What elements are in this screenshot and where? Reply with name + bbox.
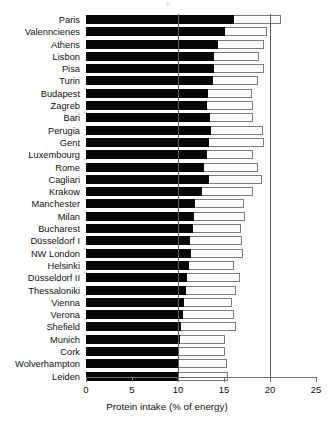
plot-area [86, 14, 316, 376]
bar-inner [86, 89, 208, 98]
y-axis-label: Krakow [0, 186, 83, 198]
y-axis-label: Manchester [0, 198, 83, 210]
bar-row [86, 198, 316, 210]
bar-inner [86, 150, 207, 159]
bar-inner [86, 113, 210, 122]
y-axis-label: Gent [0, 137, 83, 149]
x-tick-label: 25 [311, 384, 322, 395]
bar-inner [86, 40, 218, 49]
bar-row [86, 149, 316, 161]
y-axis-label: Leiden [0, 371, 83, 383]
y-axis-label: Helsinki [0, 260, 83, 272]
y-axis-label: Düsseldorf II [0, 272, 83, 284]
y-axis-label: Valenncienes [0, 26, 83, 38]
y-axis-label: Rome [0, 162, 83, 174]
chart-figure: o ParisValenncienesAthensLisbonPisaTurin… [0, 0, 334, 425]
x-tick-label: 20 [265, 384, 276, 395]
bar-inner [86, 249, 191, 258]
y-axis-label: Düsseldorf I [0, 235, 83, 247]
bar-row [86, 26, 316, 38]
bar-inner [86, 347, 179, 356]
bar-row [86, 211, 316, 223]
bar-row [86, 334, 316, 346]
y-axis-label: Budapest [0, 88, 83, 100]
bar-inner [86, 138, 209, 147]
bar-row [86, 285, 316, 297]
bar-row [86, 39, 316, 51]
bar-row [86, 235, 316, 247]
y-axis-label: Luxembourg [0, 149, 83, 161]
bar-inner [86, 335, 180, 344]
bar-row [86, 272, 316, 284]
y-axis-label: Wolverhampton [0, 358, 83, 370]
y-axis-label: Cork [0, 346, 83, 358]
bar-inner [86, 163, 204, 172]
bar-row [86, 75, 316, 87]
x-tick-label: 10 [173, 384, 184, 395]
y-axis-label: Turin [0, 75, 83, 87]
y-axis-label: Athens [0, 39, 83, 51]
bar-row [86, 297, 316, 309]
bar-inner [86, 187, 202, 196]
y-axis-labels: ParisValenncienesAthensLisbonPisaTurinBu… [0, 14, 83, 371]
x-tick-label: 5 [129, 384, 134, 395]
y-axis-label: Perugia [0, 125, 83, 137]
y-axis-label: Verona [0, 309, 83, 321]
x-tick [224, 377, 225, 382]
x-tick [86, 377, 87, 382]
bar-inner [86, 76, 213, 85]
y-axis-label: Cagliari [0, 174, 83, 186]
x-axis-title: Protein intake (% of energy) [0, 401, 334, 412]
bar-row [86, 346, 316, 358]
y-axis-label: Shefield [0, 321, 83, 333]
x-tick-label: 0 [83, 384, 88, 395]
bar-inner [86, 322, 181, 331]
bar-inner [86, 224, 193, 233]
bar-row [86, 162, 316, 174]
bar-row [86, 100, 316, 112]
bar-inner [86, 64, 214, 73]
bar-row [86, 358, 316, 370]
x-tick-label: 15 [219, 384, 230, 395]
bar-row [86, 112, 316, 124]
bar-row [86, 14, 316, 26]
y-axis-label: Zagreb [0, 100, 83, 112]
y-axis-label: Thessaloniki [0, 285, 83, 297]
x-axis-line [86, 377, 317, 378]
bar-row [86, 248, 316, 260]
bar-inner [86, 126, 211, 135]
bar-inner [86, 199, 195, 208]
bar-inner [86, 175, 209, 184]
bar-inner [86, 359, 179, 368]
bar-inner [86, 15, 234, 24]
y-axis-label: Pisa [0, 63, 83, 75]
y-axis-label: Vienna [0, 297, 83, 309]
bar-inner [86, 298, 184, 307]
bar-inner [86, 310, 183, 319]
bar-inner [86, 236, 190, 245]
y-axis-label: Munich [0, 334, 83, 346]
bar-row [86, 63, 316, 75]
bar-row [86, 137, 316, 149]
bar-rows [86, 14, 316, 371]
x-tick [270, 377, 271, 382]
x-tick [316, 377, 317, 382]
bar-inner [86, 101, 207, 110]
bar-row [86, 51, 316, 63]
x-tick [132, 377, 133, 382]
y-axis-label: Paris [0, 14, 83, 26]
reference-line [178, 14, 179, 377]
bar-row [86, 223, 316, 235]
bar-inner [86, 273, 187, 282]
y-axis-label: Bucharest [0, 223, 83, 235]
bar-row [86, 125, 316, 137]
bar-row [86, 321, 316, 333]
bar-inner [86, 52, 214, 61]
bar-inner [86, 27, 225, 36]
y-axis-label: Bari [0, 112, 83, 124]
bar-inner [86, 286, 186, 295]
bar-row [86, 186, 316, 198]
y-axis-label: NW London [0, 248, 83, 260]
bar-row [86, 88, 316, 100]
y-axis-label: Lisbon [0, 51, 83, 63]
